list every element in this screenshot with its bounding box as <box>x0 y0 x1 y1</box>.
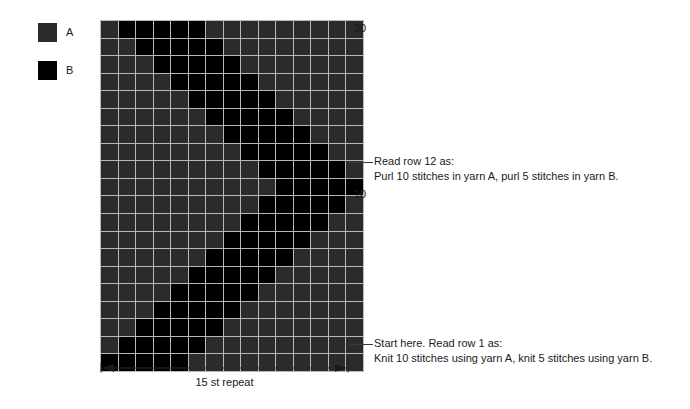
chart-cell <box>171 319 188 336</box>
chart-cell <box>259 232 276 249</box>
chart-cell <box>276 232 293 249</box>
chart-cell <box>346 161 363 178</box>
chart-cell <box>241 21 258 38</box>
row-1-annotation-line-2: Knit 10 stitches using yarn A, knit 5 st… <box>374 351 652 366</box>
chart-cell <box>276 21 293 38</box>
chart-cell <box>329 56 346 73</box>
knitting-chart-grid <box>100 20 364 372</box>
chart-cell <box>136 319 153 336</box>
legend-item-a: A <box>38 22 73 42</box>
chart-cell <box>241 39 258 56</box>
chart-cell <box>346 74 363 91</box>
chart-cell <box>154 91 171 108</box>
chart-cell <box>241 179 258 196</box>
chart-cell <box>206 302 223 319</box>
chart-cell <box>294 144 311 161</box>
legend-swatch-yarn-a <box>38 23 57 42</box>
chart-cell <box>224 91 241 108</box>
chart-cell <box>224 39 241 56</box>
chart-cell <box>329 179 346 196</box>
chart-cell <box>101 302 118 319</box>
row-1-annotation: Start here. Read row 1 as: Knit 10 stitc… <box>374 336 652 366</box>
chart-cell <box>311 109 328 126</box>
chart-cell <box>329 232 346 249</box>
chart-cell <box>259 144 276 161</box>
chart-cell <box>154 319 171 336</box>
chart-cell <box>276 91 293 108</box>
chart-cell <box>276 214 293 231</box>
chart-cell <box>224 267 241 284</box>
chart-cell <box>154 39 171 56</box>
chart-cell <box>206 161 223 178</box>
chart-cell <box>259 302 276 319</box>
chart-cell <box>154 21 171 38</box>
chart-cell <box>154 74 171 91</box>
chart-cell <box>276 144 293 161</box>
chart-cell <box>101 196 118 213</box>
chart-cell <box>346 109 363 126</box>
chart-cell <box>346 249 363 266</box>
chart-cell <box>259 74 276 91</box>
chart-cell <box>276 302 293 319</box>
chart-cell <box>224 126 241 143</box>
chart-cell <box>154 214 171 231</box>
chart-cell <box>259 214 276 231</box>
chart-cell <box>329 196 346 213</box>
chart-cell <box>294 56 311 73</box>
chart-cell <box>206 196 223 213</box>
chart-cell <box>171 109 188 126</box>
chart-cell <box>276 196 293 213</box>
chart-cell <box>136 161 153 178</box>
row-12-annotation: Read row 12 as: Purl 10 stitches in yarn… <box>374 154 619 184</box>
chart-cell <box>224 196 241 213</box>
chart-cell <box>311 232 328 249</box>
chart-cell <box>136 179 153 196</box>
chart-cell <box>154 161 171 178</box>
chart-cell <box>189 109 206 126</box>
chart-cell <box>119 214 136 231</box>
chart-cell <box>171 144 188 161</box>
chart-cell <box>171 21 188 38</box>
chart-cell <box>311 91 328 108</box>
chart-cell <box>101 214 118 231</box>
chart-cell <box>329 284 346 301</box>
chart-cell <box>329 39 346 56</box>
chart-cell <box>136 214 153 231</box>
chart-cell <box>241 337 258 354</box>
chart-cell <box>189 196 206 213</box>
chart-cell <box>241 249 258 266</box>
chart-cell <box>119 196 136 213</box>
chart-cell <box>136 267 153 284</box>
chart-cell <box>294 337 311 354</box>
chart-cell <box>136 337 153 354</box>
chart-cell <box>294 21 311 38</box>
chart-cell <box>311 284 328 301</box>
chart-cell <box>101 109 118 126</box>
chart-cell <box>224 144 241 161</box>
chart-cell <box>101 21 118 38</box>
chart-cell <box>136 284 153 301</box>
chart-cell <box>259 196 276 213</box>
chart-cell <box>154 302 171 319</box>
chart-cell <box>171 196 188 213</box>
chart-cell <box>294 74 311 91</box>
chart-cell <box>224 56 241 73</box>
chart-cell <box>259 56 276 73</box>
repeat-span-arrow <box>100 359 349 370</box>
chart-cell <box>346 91 363 108</box>
chart-cell <box>329 144 346 161</box>
chart-cell <box>136 39 153 56</box>
chart-cell <box>329 126 346 143</box>
chart-cell <box>171 267 188 284</box>
chart-cell <box>189 126 206 143</box>
chart-cell <box>189 161 206 178</box>
row-number-label-20: 20 <box>354 23 366 34</box>
chart-cell <box>101 126 118 143</box>
chart-cell <box>259 109 276 126</box>
chart-cell <box>206 214 223 231</box>
chart-cell <box>136 232 153 249</box>
chart-cell <box>259 161 276 178</box>
chart-cell <box>171 302 188 319</box>
chart-cell <box>189 144 206 161</box>
chart-cell <box>206 39 223 56</box>
